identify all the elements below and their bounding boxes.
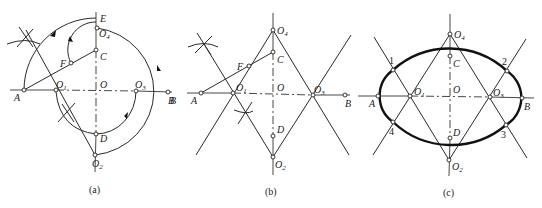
arc-o3-d [96, 91, 136, 134]
label-a: A [13, 92, 21, 103]
minor-axis-bottom [449, 138, 450, 176]
caption-a: (a) [89, 184, 100, 196]
caption-b: (b) [265, 186, 277, 198]
point-b [166, 90, 170, 94]
panel-a: A O1 O O3 B E O4 C F D O2 (a) [7, 12, 174, 196]
point-d [448, 136, 452, 140]
label-a: A [190, 95, 198, 106]
arc-ef [68, 22, 96, 63]
line-1-o2 [374, 37, 449, 160]
point-f [247, 64, 251, 68]
line-o4-o3-ext [273, 30, 349, 155]
point-c [94, 48, 98, 52]
arc-mark-bottom-2 [238, 102, 252, 124]
label-c: C [277, 54, 284, 65]
panel-b: B A O1 O O3 B O4 C [170, 13, 351, 198]
label-f: F [59, 58, 67, 69]
point-o3 [488, 95, 492, 99]
label-point-3: 3 [501, 129, 506, 140]
arc-mark-top-1 [7, 41, 40, 45]
label-o4: O4 [454, 29, 465, 42]
point-f [69, 61, 73, 65]
label-o: O [100, 79, 107, 90]
point-b [343, 93, 347, 97]
point-o4 [448, 32, 452, 36]
four-center-ellipse-construction-figure: A O1 O O3 B E O4 C F D O2 (a) B [0, 0, 542, 208]
label-o4: O4 [277, 25, 288, 38]
label-d: D [276, 124, 285, 135]
label-d: D [99, 133, 108, 144]
label-o3: O3 [493, 87, 504, 100]
label-e: E [99, 13, 106, 24]
point-o1 [408, 94, 412, 98]
point-o2 [93, 153, 97, 157]
point-d [94, 132, 98, 136]
label-b: B [524, 101, 530, 112]
arc-mark-bottom-1 [234, 110, 253, 113]
point-o1 [231, 91, 235, 95]
label-point-1: 1 [389, 55, 394, 66]
label-o2: O2 [275, 159, 286, 172]
point-c [448, 54, 452, 58]
label-o2: O2 [452, 161, 463, 174]
label-a: A [368, 98, 376, 109]
label-o4: O4 [99, 28, 110, 41]
point-o4 [271, 28, 275, 32]
label-o2: O2 [92, 158, 103, 171]
point-d [271, 134, 275, 138]
label-d: D [452, 127, 461, 138]
caption-c: (c) [443, 187, 454, 199]
label-b: B [345, 98, 351, 109]
label-point-4: 4 [389, 126, 394, 137]
point-a [376, 94, 380, 98]
point-3 [504, 123, 508, 127]
point-o2 [447, 158, 451, 162]
label-b-edge: B [170, 95, 176, 106]
label-o1: O1 [414, 86, 425, 99]
point-a [199, 91, 203, 95]
label-f: F [236, 61, 244, 72]
label-c: C [453, 58, 460, 69]
point-b [520, 96, 524, 100]
major-axis-center [56, 90, 136, 91]
point-a [22, 88, 26, 92]
arc-o1-d [56, 92, 96, 134]
point-2 [505, 69, 509, 73]
label-c: C [100, 51, 107, 62]
arrow-icon [157, 65, 161, 71]
label-point-2: 2 [502, 56, 507, 67]
point-c [271, 50, 275, 54]
panel-c: A O1 O O3 B O4 C D O2 1 2 3 4 (c) [358, 14, 534, 199]
label-o: O [277, 82, 284, 93]
point-1 [391, 68, 395, 72]
point-4 [391, 120, 395, 124]
label-o: O [453, 84, 460, 95]
